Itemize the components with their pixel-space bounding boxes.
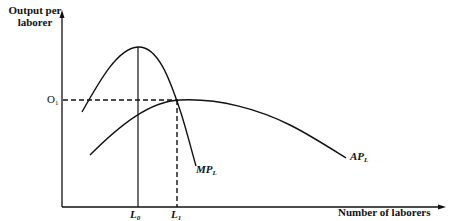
y-axis-label-line1: Output per (8, 4, 62, 16)
y-axis-label: Output per laborer (8, 4, 62, 28)
production-curves-diagram: Output per laborer O1 L0 L1 MPL APL Numb… (0, 0, 449, 221)
y-tick-o1: O1 (47, 93, 58, 109)
x-axis-label: Number of laborers (338, 206, 430, 218)
x-tick-l0: L0 (130, 208, 140, 221)
diagram-canvas (0, 0, 449, 221)
mp-curve (82, 47, 196, 166)
x-axis-arrow-icon (438, 205, 446, 210)
ap-curve-label: APL (350, 150, 368, 166)
mp-curve-label: MPL (196, 163, 217, 179)
y-axis-label-line2: laborer (8, 16, 62, 28)
ap-curve (90, 100, 346, 158)
x-tick-l1: L1 (171, 208, 181, 221)
